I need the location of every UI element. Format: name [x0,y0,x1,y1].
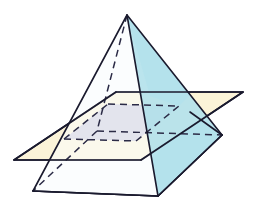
pyramid-planes-diagram [0,0,262,214]
geometry-figure: Square pyramid intersected by two parall… [0,0,262,214]
